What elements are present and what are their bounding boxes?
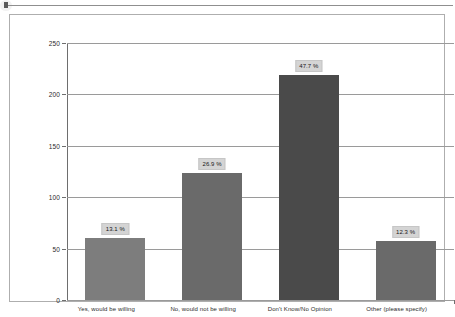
y-axis-tick-label: 0 xyxy=(56,297,60,304)
y-axis-tick-label: 100 xyxy=(49,194,60,201)
bar[interactable]: 13.1 % xyxy=(85,238,145,300)
horizontal-rule xyxy=(8,5,453,6)
chart-frame: 050100150200250 13.1 %26.9 %47.7 %12.3 %… xyxy=(9,14,445,302)
y-axis-tick-label: 250 xyxy=(49,40,60,47)
bar-value-label: 12.3 % xyxy=(392,226,419,238)
bar-value-label: 47.7 % xyxy=(295,60,322,72)
y-axis-tick-label: 50 xyxy=(53,245,60,252)
bar-value-label: 13.1 % xyxy=(102,223,129,235)
bar[interactable]: 47.7 % xyxy=(279,75,339,300)
y-axis-tick-mark xyxy=(62,146,66,147)
x-axis-tick-label: No, would not be willing xyxy=(170,305,235,313)
gridline xyxy=(67,43,454,44)
y-axis-tick-label: 150 xyxy=(49,142,60,149)
y-axis-tick-mark xyxy=(62,197,66,198)
gridline xyxy=(67,300,454,301)
bar[interactable]: 12.3 % xyxy=(376,241,436,300)
x-axis-tick-label: Other (please specify) xyxy=(366,305,427,313)
gridline xyxy=(67,146,454,147)
y-axis-tick-mark xyxy=(62,249,66,250)
x-axis-tick-label: Yes, would be willing xyxy=(78,305,135,313)
y-axis-tick-mark xyxy=(62,94,66,95)
y-axis-tick-mark xyxy=(62,300,66,301)
y-axis-tick-mark xyxy=(62,43,66,44)
plot-area: 050100150200250 13.1 %26.9 %47.7 %12.3 % xyxy=(67,43,454,300)
bar-value-label: 26.9 % xyxy=(198,158,225,170)
y-axis-tick-label: 200 xyxy=(49,91,60,98)
bar[interactable]: 26.9 % xyxy=(182,173,242,300)
gridline xyxy=(67,197,454,198)
gridline xyxy=(67,94,454,95)
x-axis-tick-label: Don't Know/No Opinion xyxy=(268,305,332,313)
top-toolbar-strip xyxy=(0,0,453,12)
